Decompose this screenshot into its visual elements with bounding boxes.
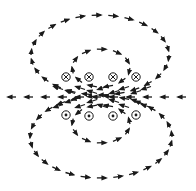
loop-arrow-outer-top	[125, 18, 133, 20]
loop-arrow-outer-bottom	[46, 107, 52, 111]
loop-arrow-inner-bottom	[76, 110, 82, 115]
loop-arrow-outer-top	[39, 32, 44, 37]
loop-arrow-outer-top	[168, 55, 169, 60]
loop-arrow-outer-top	[161, 36, 165, 41]
loop-arrow-outer-bottom	[52, 167, 59, 170]
loop-arrow-outer-top	[33, 40, 36, 45]
loop-arrow-outer-bottom	[34, 151, 38, 156]
loop-arrow-inner-bottom	[113, 138, 121, 141]
loop-arrow-outer-bottom	[129, 172, 137, 174]
loop-arrow-outer-bottom	[66, 173, 74, 175]
loop-arrow-outer-bottom	[155, 159, 160, 163]
loop-arrow-outer-bottom	[171, 132, 172, 137]
loop-arrow-outer-top	[156, 74, 161, 79]
loop-arrow-outer-top	[164, 65, 167, 70]
loop-arrow-outer-bottom	[164, 151, 168, 156]
interior-arrow	[54, 105, 63, 108]
loop-arrow-outer-bottom	[167, 123, 170, 128]
dot-mark	[88, 115, 91, 118]
dot-mark	[65, 114, 68, 117]
loop-arrow-inner-top	[73, 57, 77, 62]
loop-arrow-outer-bottom	[121, 98, 130, 100]
loop-arrow-outer-bottom	[30, 132, 31, 137]
interior-arrow	[66, 100, 75, 103]
loop-arrow-outer-bottom	[72, 98, 81, 100]
interior-arrow	[142, 87, 151, 90]
interior-arrow	[98, 87, 107, 90]
loop-arrow-outer-bottom	[143, 167, 150, 170]
loop-arrow-outer-bottom	[42, 160, 47, 164]
loop-arrow-outer-top	[139, 22, 146, 25]
interior-arrow	[76, 87, 85, 90]
loop-arrow-outer-top	[108, 15, 117, 16]
loop-arrow-inner-top	[82, 51, 90, 54]
interior-arrow	[120, 87, 129, 90]
loop-arrow-inner-bottom	[72, 119, 73, 125]
dot-mark	[112, 115, 115, 118]
loop-arrow-outer-bottom	[32, 123, 35, 128]
loop-arrow-inner-bottom	[88, 105, 97, 107]
loop-arrow-outer-top	[83, 94, 92, 95]
loop-arrow-outer-top	[152, 29, 158, 33]
loop-arrow-outer-top	[31, 59, 33, 64]
loop-arrow-inner-top	[88, 85, 97, 87]
loop-arrow-outer-bottom	[58, 102, 66, 105]
loop-arrow-outer-bottom	[37, 115, 42, 120]
loop-arrow-inner-top	[129, 68, 130, 74]
loop-arrow-inner-bottom	[125, 129, 129, 135]
interior-arrow	[120, 105, 129, 108]
interior-arrow	[132, 91, 141, 94]
loop-arrow-inner-top	[119, 78, 125, 82]
loop-arrow-outer-bottom	[170, 141, 172, 146]
loop-arrow-outer-top	[48, 25, 55, 29]
loop-arrow-outer-bottom	[81, 176, 90, 177]
loop-arrow-inner-bottom	[129, 118, 130, 124]
field-lines-svg	[0, 0, 196, 191]
loop-arrow-outer-top	[35, 69, 39, 74]
loop-arrow-outer-bottom	[160, 114, 165, 119]
interior-arrow	[88, 91, 97, 94]
loop-arrow-outer-bottom	[113, 176, 122, 177]
loop-arrow-inner-top	[76, 78, 82, 83]
loop-arrow-inner-bottom	[82, 138, 90, 141]
loop-arrow-outer-top	[116, 92, 125, 94]
interior-arrow	[110, 100, 119, 103]
solenoid-field-diagram	[0, 0, 196, 191]
loop-arrow-inner-top	[125, 58, 129, 64]
loop-arrow-inner-bottom	[119, 109, 125, 113]
loop-arrow-outer-top	[131, 88, 139, 91]
loop-arrow-outer-top	[61, 19, 69, 22]
loop-arrow-outer-top	[145, 82, 152, 86]
loop-arrow-outer-bottom	[31, 142, 33, 147]
interior-field-arrows	[54, 87, 151, 108]
dot-mark	[135, 114, 138, 117]
loop-arrow-inner-top	[72, 68, 73, 74]
loop-arrow-inner-top	[113, 51, 121, 54]
interior-arrow	[76, 105, 85, 108]
interior-arrow	[88, 100, 97, 103]
loop-arrow-outer-top	[167, 45, 169, 50]
loop-arrow-inner-bottom	[73, 129, 77, 134]
loop-arrow-outer-top	[31, 50, 32, 55]
interior-arrow	[142, 105, 151, 108]
loop-arrow-outer-top	[43, 77, 49, 81]
loop-arrow-outer-top	[76, 16, 85, 18]
